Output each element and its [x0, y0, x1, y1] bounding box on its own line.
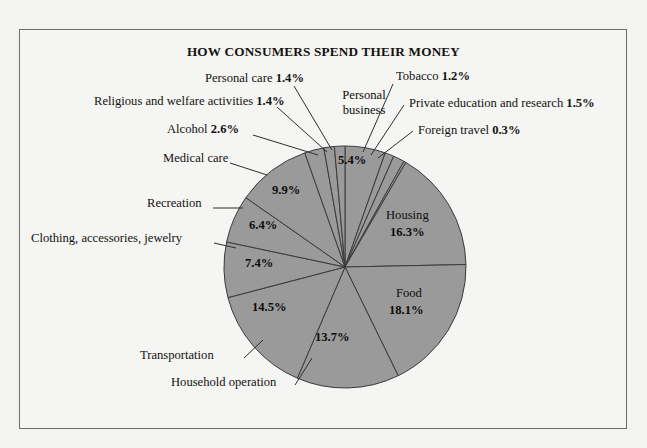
callout-medical-care-name: Medical care	[163, 151, 228, 165]
callout-religious-name: Religious and welfare activities	[94, 94, 253, 108]
callout-religious-value: 1.4%	[256, 94, 284, 108]
callout-tobacco-name: Tobacco	[396, 69, 438, 83]
label-personal-business: Personal business	[325, 88, 403, 117]
callout-transportation: Transportation	[140, 348, 214, 362]
callout-alcohol-value: 2.6%	[211, 122, 239, 136]
value-clothing: 7.4%	[245, 256, 273, 271]
callout-alcohol-name: Alcohol	[167, 122, 208, 136]
callout-foreign-travel-value: 0.3%	[492, 123, 520, 137]
value-medical-care: 9.9%	[272, 183, 300, 198]
label-housing: Housing	[386, 208, 429, 223]
value-food: 18.1%	[389, 303, 424, 318]
label-personal-business-line1: Personal	[325, 88, 403, 103]
callout-medical-care: Medical care	[163, 151, 228, 165]
callout-recreation: Recreation	[147, 196, 202, 210]
label-personal-business-line2: business	[325, 103, 403, 118]
value-recreation: 6.4%	[249, 218, 277, 233]
callout-transportation-name: Transportation	[140, 348, 214, 362]
callout-recreation-name: Recreation	[147, 196, 202, 210]
callout-tobacco-value: 1.2%	[442, 69, 470, 83]
value-housing: 16.3%	[390, 225, 425, 240]
callout-personal-care-value: 1.4%	[276, 71, 304, 85]
callout-religious: Religious and welfare activities 1.4%	[94, 94, 285, 108]
callout-clothing-name: Clothing, accessories, jewelry	[31, 231, 182, 245]
label-food: Food	[396, 286, 422, 301]
value-household-operation: 13.7%	[315, 330, 350, 345]
callout-foreign-travel-name: Foreign travel	[418, 123, 489, 137]
callout-private-education-value: 1.5%	[566, 96, 594, 110]
callout-clothing: Clothing, accessories, jewelry	[31, 231, 182, 245]
pie-chart-svg	[0, 0, 647, 448]
callout-personal-care: Personal care 1.4%	[205, 71, 304, 85]
callout-household-operation-name: Household operation	[171, 375, 276, 389]
callout-household-operation: Household operation	[171, 375, 276, 389]
callout-foreign-travel: Foreign travel 0.3%	[418, 123, 521, 137]
leader-line-alcohol	[253, 135, 318, 155]
value-personal-business: 5.4%	[338, 153, 366, 168]
callout-private-education: Private education and research 1.5%	[409, 96, 595, 110]
value-transportation: 14.5%	[252, 300, 287, 315]
callout-tobacco: Tobacco 1.2%	[396, 69, 470, 83]
callout-personal-care-name: Personal care	[205, 71, 272, 85]
leader-line-foreign-travel	[378, 131, 413, 158]
callout-alcohol: Alcohol 2.6%	[167, 122, 239, 136]
callout-private-education-name: Private education and research	[409, 96, 563, 110]
leader-line-medical-care	[230, 163, 267, 175]
